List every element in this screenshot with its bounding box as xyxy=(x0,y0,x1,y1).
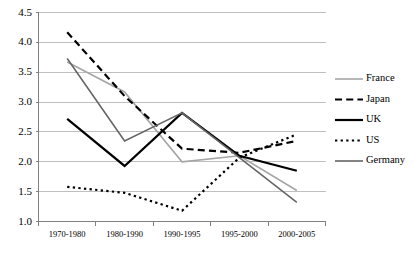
x-tick-marks-group xyxy=(39,222,326,226)
series-lines-group xyxy=(67,32,297,211)
y-tick-label: 3.5 xyxy=(2,66,32,77)
y-tick-label: 2.0 xyxy=(2,156,32,167)
x-tick-label: 2000-2005 xyxy=(268,230,325,239)
legend-label-germany: Germany xyxy=(366,155,405,166)
line-chart: 1.01.52.02.53.03.54.04.5 1970-19801980-1… xyxy=(0,0,414,261)
y-tick-label: 4.0 xyxy=(2,36,32,47)
y-tick-label: 1.0 xyxy=(2,216,32,227)
chart-plot-area xyxy=(0,0,414,261)
x-tick-label: 1990-1995 xyxy=(153,230,210,239)
y-tick-label: 3.0 xyxy=(2,96,32,107)
y-tick-label: 1.5 xyxy=(2,186,32,197)
legend-label-france: France xyxy=(366,73,395,84)
y-tick-label: 4.5 xyxy=(2,7,32,18)
series-line-japan xyxy=(67,32,297,153)
gridlines-group xyxy=(39,13,326,222)
series-line-france xyxy=(67,62,297,190)
x-tick-label: 1995-2000 xyxy=(211,230,268,239)
y-tick-label: 2.5 xyxy=(2,126,32,137)
legend-swatches-group xyxy=(335,79,363,161)
legend-label-us: US xyxy=(366,135,379,146)
x-tick-label: 1970-1980 xyxy=(39,230,96,239)
legend-label-japan: Japan xyxy=(366,94,390,105)
legend-label-uk: UK xyxy=(366,114,381,125)
x-tick-label: 1980-1990 xyxy=(96,230,153,239)
